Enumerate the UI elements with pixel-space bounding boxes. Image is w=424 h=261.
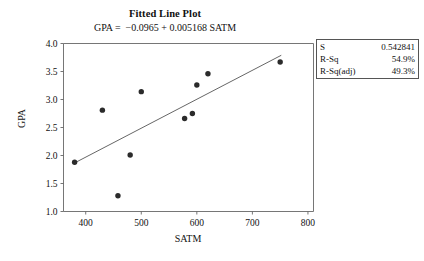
svg-text:700: 700 bbox=[245, 218, 260, 228]
svg-text:2.5: 2.5 bbox=[46, 123, 58, 133]
svg-text:1.5: 1.5 bbox=[46, 179, 58, 189]
svg-text:1.0: 1.0 bbox=[46, 207, 58, 217]
svg-text:3.5: 3.5 bbox=[46, 67, 58, 77]
stats-row: S0.542841 bbox=[317, 41, 418, 53]
stats-label: S bbox=[320, 41, 325, 53]
axis-ticks bbox=[61, 44, 308, 215]
svg-text:4.0: 4.0 bbox=[46, 39, 58, 49]
statistics-box: S0.542841R-Sq54.9%R-Sq(adj)49.3% bbox=[316, 39, 419, 79]
stats-value: 0.542841 bbox=[381, 41, 415, 53]
stats-label: R-Sq bbox=[320, 53, 339, 65]
svg-text:400: 400 bbox=[79, 218, 94, 228]
stats-label: R-Sq(adj) bbox=[320, 65, 356, 77]
data-points bbox=[72, 59, 283, 198]
stats-value: 54.9% bbox=[392, 53, 415, 65]
regression-line bbox=[75, 55, 282, 163]
fitted-line-plot-figure: Fitted Line Plot GPA = −0.0965 + 0.00516… bbox=[0, 0, 424, 261]
svg-text:800: 800 bbox=[301, 218, 316, 228]
stats-row: R-Sq(adj)49.3% bbox=[317, 65, 418, 77]
svg-text:2.0: 2.0 bbox=[46, 151, 58, 161]
axes bbox=[64, 44, 314, 212]
svg-text:3.0: 3.0 bbox=[46, 95, 58, 105]
stats-value: 49.3% bbox=[392, 65, 415, 77]
y-axis-title: GPA bbox=[16, 89, 27, 149]
svg-text:600: 600 bbox=[190, 218, 205, 228]
axis-tick-labels: 1.01.52.02.53.03.54.0400500600700800 bbox=[46, 39, 316, 228]
svg-text:500: 500 bbox=[134, 218, 149, 228]
x-axis-title: SATM bbox=[63, 233, 313, 244]
stats-row: R-Sq54.9% bbox=[317, 53, 418, 65]
